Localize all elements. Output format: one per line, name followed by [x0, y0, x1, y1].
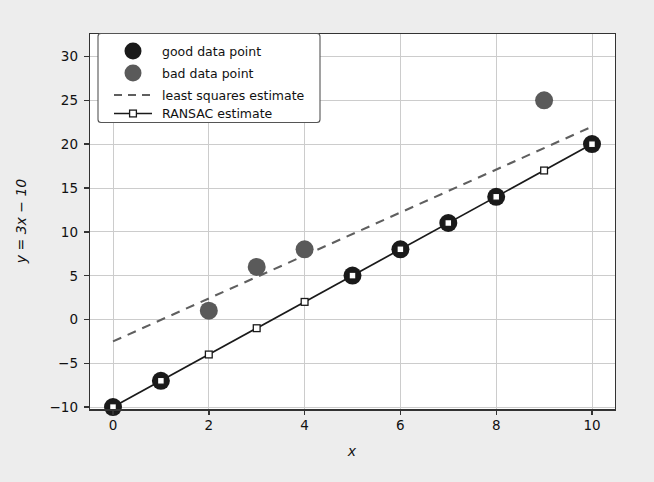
y-tick-label-30: 30 [61, 48, 78, 64]
legend-label-ransac-estimate: RANSAC estimate [162, 106, 273, 121]
ransac-marker-overlay-x7 [445, 220, 452, 227]
ransac-marker-x3 [253, 325, 260, 332]
legend-label-good-data-point: good data point [162, 44, 261, 59]
legend-marker-bad-data-point [125, 65, 142, 82]
ransac-marker-overlay-x6 [397, 246, 404, 253]
chart-canvas: 0 2 4 6 8 10 −10 −5 0 5 10 15 20 25 30 x… [0, 0, 654, 482]
x-tick-label-0: 0 [109, 417, 118, 433]
y-axis-title: y = 3x − 10 [13, 179, 29, 265]
ransac-marker-x9 [541, 167, 548, 174]
bad-point-4-8 [296, 240, 314, 258]
y-tick-label-5: 5 [69, 268, 78, 284]
y-tick-label-10: 10 [61, 224, 78, 240]
y-tick-label-25: 25 [61, 92, 78, 108]
legend-label-bad-data-point: bad data point [162, 66, 254, 81]
ransac-marker-x4 [301, 299, 308, 306]
legend-marker-good-data-point [125, 43, 142, 60]
bad-point-9-25 [535, 91, 553, 109]
ransac-marker-overlay-x5 [349, 272, 356, 279]
figure-container: 0 2 4 6 8 10 −10 −5 0 5 10 15 20 25 30 x… [0, 0, 654, 482]
bad-point-2-1 [200, 302, 218, 320]
x-tick-label-8: 8 [492, 417, 501, 433]
ransac-marker-overlay-x8 [493, 193, 500, 200]
y-tick-label--10: −10 [50, 399, 79, 415]
ransac-marker-x2 [205, 351, 212, 358]
x-tick-label-10: 10 [583, 417, 600, 433]
y-tick-label-15: 15 [61, 180, 78, 196]
legend-label-least-squares-estimate: least squares estimate [162, 88, 305, 103]
legend-marker-ransac-square [130, 110, 137, 117]
legend: good data point bad data point least squ… [98, 34, 320, 123]
y-tick-label-0: 0 [69, 311, 78, 327]
x-tick-label-4: 4 [300, 417, 309, 433]
x-axis-title: x [347, 443, 357, 459]
ransac-marker-overlay-x1 [158, 377, 165, 384]
bad-point-3-6 [248, 258, 266, 276]
y-tick-label-20: 20 [61, 136, 78, 152]
ransac-marker-overlay-x10 [589, 141, 596, 148]
x-tick-label-6: 6 [396, 417, 405, 433]
x-tick-label-2: 2 [205, 417, 214, 433]
y-tick-label--5: −5 [58, 355, 78, 371]
